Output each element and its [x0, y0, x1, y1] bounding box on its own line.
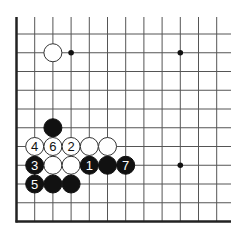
black-stone-icon: [62, 175, 80, 193]
white-stone-icon: [44, 44, 62, 62]
black-stone: [62, 175, 80, 193]
move-number: 6: [49, 139, 56, 154]
white-stone: [44, 44, 62, 62]
black-stone-icon: [99, 156, 117, 174]
star-point-icon: [178, 162, 184, 168]
white-stone-icon: [62, 156, 80, 174]
star-point-icon: [68, 50, 74, 56]
star-point-icon: [178, 50, 184, 56]
black-stone-icon: [44, 119, 62, 137]
white-stone: [44, 156, 62, 174]
black-stone: [44, 119, 62, 137]
move-number: 3: [31, 158, 38, 173]
move-number: 4: [31, 139, 38, 154]
white-stone-4: 4: [26, 138, 44, 156]
black-stone-5: 5: [26, 175, 44, 193]
white-stone: [80, 138, 98, 156]
white-stone-icon: [80, 138, 98, 156]
white-stone-icon: [44, 156, 62, 174]
black-stone-1: 1: [80, 156, 98, 174]
move-number: 2: [67, 139, 74, 154]
move-number: 7: [122, 158, 129, 173]
black-stone: [99, 156, 117, 174]
stones: 4623175: [26, 44, 135, 193]
white-stone-6: 6: [44, 138, 62, 156]
black-stone-3: 3: [26, 156, 44, 174]
white-stone: [62, 156, 80, 174]
white-stone: [99, 138, 117, 156]
white-stone-icon: [99, 138, 117, 156]
move-number: 1: [86, 158, 93, 173]
black-stone-7: 7: [117, 156, 135, 174]
black-stone-icon: [44, 175, 62, 193]
move-number: 5: [31, 177, 38, 192]
black-stone: [44, 175, 62, 193]
white-stone-2: 2: [62, 138, 80, 156]
go-board: 4623175: [0, 0, 250, 233]
